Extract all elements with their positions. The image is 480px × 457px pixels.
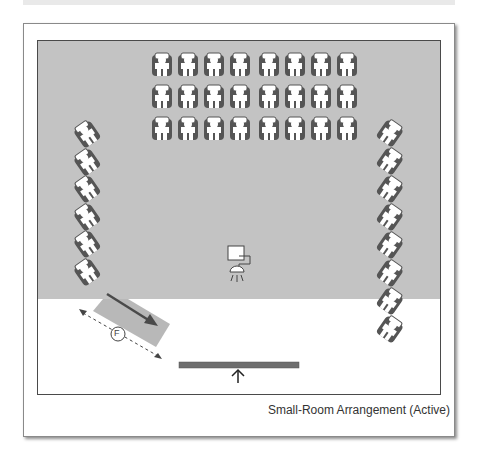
top-strip (23, 0, 455, 5)
figure-caption: Small-Room Arrangement (Active) (268, 403, 450, 417)
stage-bar (179, 362, 299, 368)
screen-marker-label: F (114, 328, 120, 338)
screen-band (93, 299, 170, 347)
room-floorplan: F (37, 40, 441, 395)
screen-diagram (38, 41, 440, 394)
arrow-up-icon (232, 370, 244, 383)
